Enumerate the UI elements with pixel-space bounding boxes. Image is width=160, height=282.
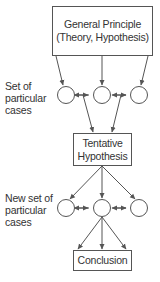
arrow-cases-to-hypothesis-right	[112, 95, 121, 132]
arrow-new-case-to-conclusion-right	[102, 217, 126, 249]
tentative-hypothesis-line1: Tentative	[82, 137, 122, 150]
general-principle-box: General Principle (Theory, Hypothesis)	[52, 6, 153, 56]
new-case-circle-3	[131, 200, 148, 217]
new-set-of-cases-label: New set of particular cases	[5, 192, 53, 228]
arrow-principle-to-case-3	[141, 56, 148, 85]
arrow-principle-to-case-1	[56, 56, 63, 85]
case-circle-1	[58, 87, 75, 104]
general-principle-line1: General Principle	[64, 18, 141, 31]
conclusion-label: Conclusion	[78, 254, 128, 267]
new-case-circle-1	[58, 200, 75, 217]
tentative-hypothesis-line2: Hypothesis	[78, 150, 128, 163]
new-case-circle-2	[94, 200, 111, 217]
conclusion-box: Conclusion	[73, 250, 132, 271]
set-of-cases-label: Set of particular cases	[5, 80, 46, 116]
general-principle-line2: (Theory, Hypothesis)	[56, 31, 149, 44]
tentative-hypothesis-box: Tentative Hypothesis	[73, 133, 132, 166]
arrow-cases-to-hypothesis-left	[83, 95, 93, 132]
arrow-new-case-to-conclusion-left	[78, 217, 102, 249]
case-circle-3	[131, 87, 148, 104]
arrow-hypothesis-to-new-case-3	[102, 166, 135, 199]
arrow-hypothesis-to-new-case-1	[70, 166, 102, 199]
case-circle-2	[94, 87, 111, 104]
